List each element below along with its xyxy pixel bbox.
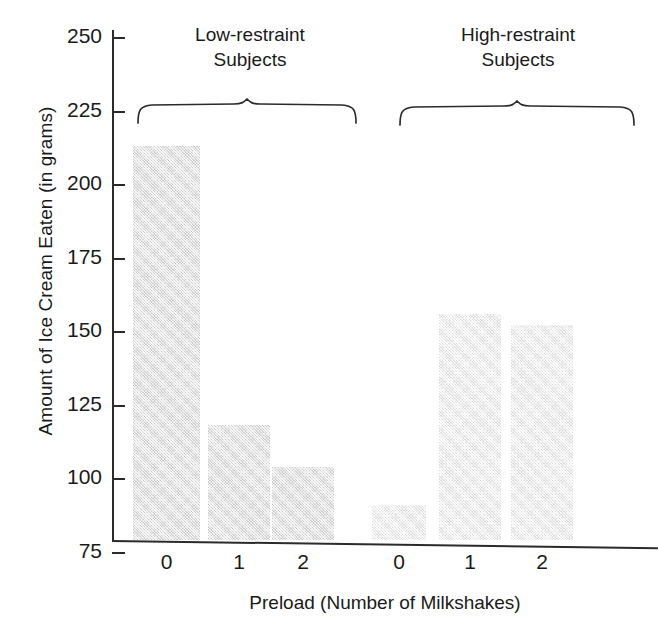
- group-label-low-restraint: Low-restraint Subjects: [150, 22, 350, 72]
- bar: [439, 314, 501, 540]
- x-axis-tick-label: 2: [283, 550, 323, 574]
- bar-chart-figure: Amount of Ice Cream Eaten (in grams) 751…: [0, 0, 658, 629]
- plot-area: [0, 0, 658, 540]
- brace-low-restraint: [136, 98, 358, 124]
- group-label-low-restraint-line1: Low-restraint: [150, 22, 350, 47]
- brace-high-restraint: [398, 100, 636, 126]
- x-axis-title: Preload (Number of Milkshakes): [112, 592, 658, 614]
- x-axis-tick-label: 1: [219, 550, 259, 574]
- x-axis-tick-label: 0: [379, 550, 419, 574]
- bar: [208, 425, 270, 540]
- bar-fill: [133, 146, 200, 540]
- bar-fill: [208, 425, 270, 540]
- bar-fill: [511, 325, 573, 540]
- bar: [372, 505, 426, 540]
- bar: [511, 325, 573, 540]
- bar: [133, 146, 200, 540]
- y-axis-tick-label: 75: [40, 539, 102, 563]
- x-axis-line: [112, 540, 658, 549]
- bar: [272, 467, 334, 540]
- x-axis-tick-label: 1: [450, 550, 490, 574]
- bar-fill: [272, 467, 334, 540]
- y-axis-tick: [112, 552, 125, 554]
- x-axis-tick-label: 0: [147, 550, 187, 574]
- group-label-high-restraint-line1: High-restraint: [413, 22, 623, 47]
- group-label-high-restraint-line2: Subjects: [413, 47, 623, 72]
- group-label-low-restraint-line2: Subjects: [150, 47, 350, 72]
- x-axis-tick-label: 2: [522, 550, 562, 574]
- group-label-high-restraint: High-restraint Subjects: [413, 22, 623, 72]
- bar-fill: [372, 505, 426, 540]
- bar-fill: [439, 314, 501, 540]
